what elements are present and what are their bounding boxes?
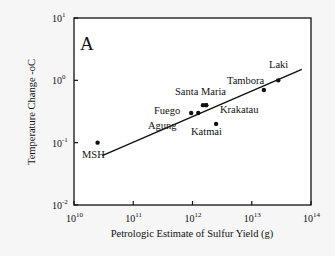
point-label: MSH: [82, 149, 105, 160]
x-axis-title: Petrologic Estimate of Sulfur Yield (g): [111, 228, 274, 240]
x-tick-label: 1013: [244, 211, 262, 224]
data-point: [196, 111, 200, 115]
panel-label: A: [80, 33, 94, 54]
data-point: [189, 111, 193, 115]
y-axis-title: Temperature Change -oC: [26, 59, 37, 165]
data-point: [95, 140, 99, 144]
point-label: Fuego: [154, 105, 180, 116]
data-point: [276, 78, 280, 82]
x-tick-label: 1011: [125, 211, 142, 224]
point-label: Tambora: [227, 75, 265, 86]
point-label: Laki: [269, 59, 288, 70]
scatter-chart: 1010101110121013101410-210-1100101 MSHAg…: [0, 0, 335, 256]
point-label: Krakatau: [220, 104, 259, 115]
point-label: Agung: [148, 120, 177, 131]
x-tick-label: 1010: [66, 211, 84, 224]
y-tick-label: 101: [52, 11, 66, 24]
y-tick-label: 10-2: [52, 198, 68, 211]
x-tick-label: 1012: [185, 211, 203, 224]
data-point: [262, 88, 266, 92]
point-label: Santa Maria: [175, 86, 226, 97]
x-tick-label: 1014: [303, 211, 321, 224]
y-tick-label: 100: [52, 73, 66, 86]
point-label: Katmai: [191, 126, 222, 137]
data-point: [204, 103, 208, 107]
y-tick-label: 10-1: [52, 136, 68, 149]
